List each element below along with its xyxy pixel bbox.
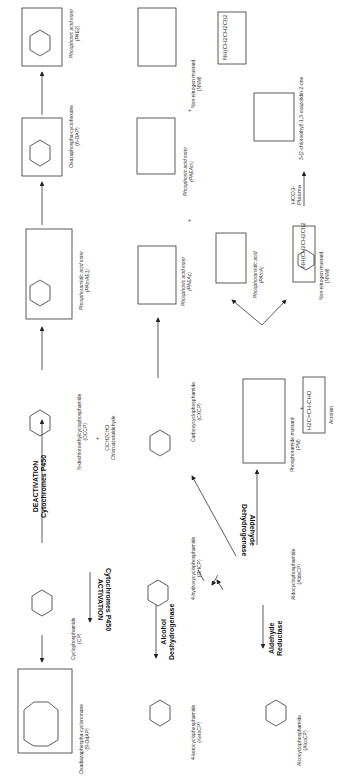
label-oxazolidinone: 3-(2-chloroethyl)-1,3-oxazolidin-2-one xyxy=(298,77,304,160)
label-chloroacetaldehyde: ClCH2CHOChloroacetaldehyde xyxy=(104,416,116,460)
label-plus-1: + xyxy=(186,219,192,222)
arrow-label-deactivation: DEACTIVATIONCytochromes P450 xyxy=(32,455,48,518)
label-odcap: Oxadiazaphospha-cyclononane(9-OdAP) xyxy=(78,704,90,774)
label-plus-pm: + xyxy=(298,407,304,410)
arrow-label-activation: Cytochromes P450ACTIVATION xyxy=(96,568,112,631)
label-pamae1: Phosphoramidic acid ester(PAmAE1) xyxy=(78,251,90,310)
formula-nnm-upper: NH(CH2CH2Cl)2 xyxy=(222,14,228,60)
label-cxcp: Carboxycyclophosphamide(CXCP) xyxy=(190,382,202,442)
label-pae2: Phosphonic acid ester(PAE2) xyxy=(68,9,80,58)
label-alcocp: Alcocyclophosphamide(AlcoCP) xyxy=(296,715,308,766)
formula-acrolein: H2C=CH-CHO xyxy=(306,390,312,430)
arrow-label-aldehyde-dh: AldehydeDehydrogenase xyxy=(240,504,256,557)
label-ocap: Oxazaphospha-cyclohexane(6-OAP) xyxy=(68,105,80,168)
label-ketocp: 4-ketocyclophosphamide(KetoCP) xyxy=(190,705,202,760)
formula-nnm-lower: NH(CH2CH2Cl)2 xyxy=(300,222,306,268)
label-paeam: Phosphonic acid ester(PAEAm) xyxy=(182,147,194,196)
label-aldocp: Aldocyclophosphamide(AldoCP) xyxy=(290,549,302,600)
label-dccp: N-dechloroethylcyclophosphamide(DCCP) xyxy=(76,394,88,470)
label-paeac: Phosphonic acid ester(PAEAc) xyxy=(180,257,192,306)
label-acrolein: Acrolein xyxy=(328,406,334,424)
label-nnm-upper: Non-nitrogen mustard(NNM) xyxy=(190,60,202,108)
pathway-arrows-and-structures xyxy=(0,0,341,784)
label-nnm-lower: Non-nitrogen mustard(NNM) xyxy=(318,252,330,300)
arrow-label-plasma: HCO3-Plasma xyxy=(290,185,302,205)
metabolism-diagram: Phosphonic acid ester(PAE2) Oxazaphospha… xyxy=(0,0,341,784)
label-plus-2: + xyxy=(186,109,192,112)
label-cp: Cyclophosphamide(CP) xyxy=(70,617,82,660)
label-pama: Phosphoramidic acid(PAmA) xyxy=(252,252,264,298)
label-ohcp: 4-hydroxycyclophosphamide(OHCP) xyxy=(190,537,202,600)
label-pm: Phosphoramide mustard(PM) xyxy=(289,418,301,472)
label-plus-dccp: + xyxy=(94,437,100,440)
arrow-label-alcohol-dh: AlcoholDeshydrogenase xyxy=(160,604,176,660)
arrow-label-aldehyde-red: AldehydeReductase xyxy=(268,621,284,656)
